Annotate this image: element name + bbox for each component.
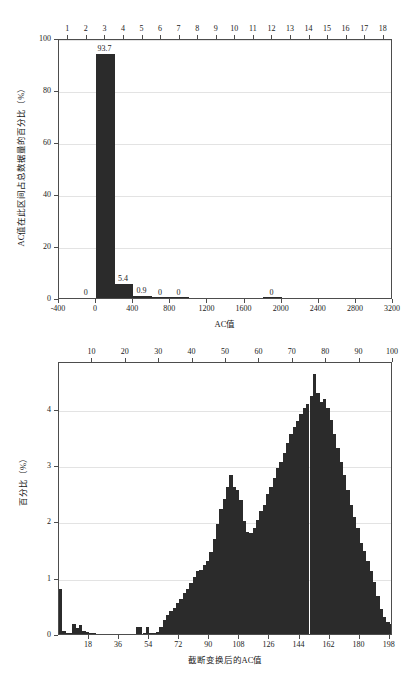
y-axis-tick bbox=[54, 91, 58, 92]
x-axis-tick bbox=[329, 635, 330, 639]
top-axis-tick bbox=[234, 35, 235, 39]
x-axis-tick-label: 198 bbox=[369, 640, 409, 649]
x-axis-tick-label: -400 bbox=[38, 304, 78, 313]
top-axis-tick bbox=[104, 35, 105, 39]
bar-value-label: 0 bbox=[251, 288, 291, 297]
top-axis-tick bbox=[309, 35, 310, 39]
x-axis-tick bbox=[281, 299, 282, 303]
plot-area-chart1 bbox=[58, 39, 392, 299]
x-axis-tick bbox=[148, 635, 149, 639]
y-axis-title-chart1: AC值在此区间占总数据量的百分比（%） bbox=[14, 35, 26, 295]
y-axis-tick bbox=[54, 635, 58, 636]
top-axis-tick bbox=[197, 35, 198, 39]
x-axis-tick bbox=[238, 635, 239, 639]
x-axis-tick bbox=[58, 299, 59, 303]
x-axis-tick bbox=[95, 299, 96, 303]
x-axis-tick-label: 800 bbox=[149, 304, 189, 313]
top-axis-tick bbox=[216, 35, 217, 39]
top-axis-tick bbox=[123, 35, 124, 39]
histogram-bar bbox=[152, 297, 171, 298]
x-axis-tick bbox=[206, 299, 207, 303]
chart-ac-truncated: 0123418365472901081261441621801981020304… bbox=[0, 340, 416, 678]
histogram-bar bbox=[59, 589, 62, 634]
plot-area-chart2 bbox=[58, 362, 392, 635]
histogram-bar bbox=[96, 54, 115, 298]
x-axis-tick-label: 0 bbox=[75, 304, 115, 313]
x-axis-tick-label: 2800 bbox=[335, 304, 375, 313]
top-axis-tick bbox=[179, 35, 180, 39]
top-axis-tick bbox=[91, 358, 92, 362]
bar-value-label: 0 bbox=[159, 288, 199, 297]
top-axis-tick bbox=[258, 358, 259, 362]
top-axis-tick bbox=[160, 35, 161, 39]
top-axis-tick bbox=[392, 358, 393, 362]
x-axis-tick bbox=[169, 299, 170, 303]
top-axis-tick bbox=[346, 35, 347, 39]
gridline-y bbox=[59, 40, 391, 41]
y-axis-tick-label: 1 bbox=[18, 574, 51, 583]
histogram-bar bbox=[263, 297, 282, 298]
x-axis-tick bbox=[118, 635, 119, 639]
top-axis-tick bbox=[158, 358, 159, 362]
x-axis-tick-label: 2400 bbox=[298, 304, 338, 313]
x-axis-tick bbox=[88, 635, 89, 639]
top-axis-tick bbox=[271, 35, 272, 39]
x-axis-tick bbox=[268, 635, 269, 639]
gridline-y bbox=[59, 411, 391, 412]
top-axis-tick bbox=[192, 358, 193, 362]
bar-value-label: 5.4 bbox=[103, 274, 143, 283]
top-axis-tick bbox=[327, 35, 328, 39]
bar-value-label: 93.7 bbox=[84, 44, 124, 53]
y-axis-tick bbox=[54, 410, 58, 411]
top-axis-tick bbox=[67, 35, 68, 39]
y-axis-tick bbox=[54, 466, 58, 467]
x-axis-tick bbox=[318, 299, 319, 303]
y-axis-tick bbox=[54, 39, 58, 40]
y-axis-tick bbox=[54, 247, 58, 248]
x-axis-title-chart1: AC值 bbox=[58, 317, 392, 329]
x-axis-tick-label: 400 bbox=[112, 304, 152, 313]
x-axis-tick bbox=[359, 635, 360, 639]
top-axis-tick bbox=[125, 358, 126, 362]
x-axis-tick bbox=[389, 635, 390, 639]
x-axis-tick bbox=[299, 635, 300, 639]
top-axis-tick-label: 18 bbox=[363, 24, 403, 33]
x-axis-tick bbox=[244, 299, 245, 303]
x-axis-tick bbox=[355, 299, 356, 303]
x-axis-tick bbox=[208, 635, 209, 639]
top-axis-tick bbox=[292, 358, 293, 362]
x-axis-tick bbox=[392, 299, 393, 303]
chart-ac-raw: 020406080100-400040080012001600200024002… bbox=[0, 0, 416, 340]
x-axis-tick-label: 2000 bbox=[261, 304, 301, 313]
x-axis-title-chart2: 截断变换后的AC值 bbox=[58, 653, 392, 665]
x-axis-tick-label: 1200 bbox=[186, 304, 226, 313]
y-axis-tick bbox=[54, 143, 58, 144]
top-axis-tick-label: 100 bbox=[372, 347, 412, 356]
top-axis-tick bbox=[325, 358, 326, 362]
top-axis-tick bbox=[142, 35, 143, 39]
top-axis-tick bbox=[86, 35, 87, 39]
x-axis-tick bbox=[132, 299, 133, 303]
y-axis-tick-label: 0 bbox=[18, 294, 51, 303]
histogram-bar bbox=[170, 297, 189, 298]
histogram-bar bbox=[92, 633, 95, 634]
top-axis-tick bbox=[364, 35, 365, 39]
y-axis-tick-label: 0 bbox=[18, 630, 51, 639]
x-axis-tick bbox=[178, 635, 179, 639]
top-axis-tick bbox=[290, 35, 291, 39]
y-axis-tick bbox=[54, 579, 58, 580]
x-axis-tick-label: 1600 bbox=[224, 304, 264, 313]
y-axis-tick bbox=[54, 195, 58, 196]
top-axis-tick bbox=[253, 35, 254, 39]
y-axis-tick bbox=[54, 522, 58, 523]
y-axis-title-chart2: 百分比（%） bbox=[16, 400, 28, 560]
top-axis-tick bbox=[383, 35, 384, 39]
bar-value-label: 0 bbox=[66, 288, 106, 297]
top-axis-tick bbox=[359, 358, 360, 362]
x-axis-tick-label: 3200 bbox=[372, 304, 412, 313]
histogram-bar bbox=[390, 624, 391, 634]
top-axis-tick bbox=[225, 358, 226, 362]
